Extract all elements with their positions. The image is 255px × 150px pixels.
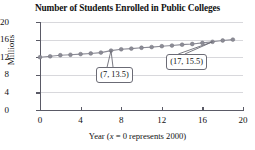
data-point bbox=[221, 39, 225, 43]
y-axis-tick-label: 8 bbox=[0, 69, 9, 79]
x-axis-title: Year (x = 0 represents 2000) bbox=[30, 131, 245, 141]
x-axis-tick-label: 16 bbox=[189, 115, 215, 125]
data-point bbox=[119, 47, 123, 51]
data-point bbox=[190, 42, 194, 46]
data-point bbox=[160, 44, 164, 48]
data-point bbox=[231, 38, 235, 42]
data-point bbox=[79, 52, 83, 56]
annotation-callout-1: (7, 13.5) bbox=[96, 67, 133, 83]
x-axis-tick-label: 12 bbox=[149, 115, 175, 125]
chart-figure: Number of Students Enrolled in Public Co… bbox=[0, 0, 255, 150]
x-axis-tick-label: 0 bbox=[27, 115, 53, 125]
y-axis-tick-label: 20 bbox=[0, 17, 9, 27]
data-point bbox=[201, 41, 205, 45]
data-point bbox=[109, 49, 113, 53]
data-point bbox=[150, 45, 154, 49]
data-point bbox=[140, 46, 144, 50]
data-point bbox=[48, 54, 52, 58]
chart-title: Number of Students Enrolled in Public Co… bbox=[0, 3, 255, 13]
annotation-callout-2: (17, 15.5) bbox=[166, 54, 207, 70]
data-point bbox=[211, 40, 215, 44]
y-axis-tick-label: 16 bbox=[0, 34, 9, 44]
data-point bbox=[38, 55, 42, 59]
data-point bbox=[129, 47, 133, 51]
data-point bbox=[69, 53, 73, 57]
y-axis-tick-label: 4 bbox=[0, 87, 9, 97]
data-point bbox=[180, 43, 184, 47]
data-point bbox=[58, 53, 62, 57]
plot-area bbox=[40, 22, 243, 111]
x-axis-tick-label: 20 bbox=[230, 115, 255, 125]
x-axis-tick-label: 4 bbox=[68, 115, 94, 125]
data-point bbox=[89, 52, 93, 56]
data-point bbox=[170, 44, 174, 48]
x-axis-tick-label: 8 bbox=[108, 115, 134, 125]
x-axis-title-post: = 0 represents 2000) bbox=[114, 131, 187, 141]
x-axis-tick bbox=[243, 107, 244, 112]
data-point bbox=[99, 51, 103, 55]
x-axis-title-pre: Year ( bbox=[89, 131, 110, 141]
y-axis-tick-label: 0 bbox=[0, 105, 9, 115]
y-axis-tick-label: 12 bbox=[0, 52, 9, 62]
data-series bbox=[40, 22, 243, 111]
